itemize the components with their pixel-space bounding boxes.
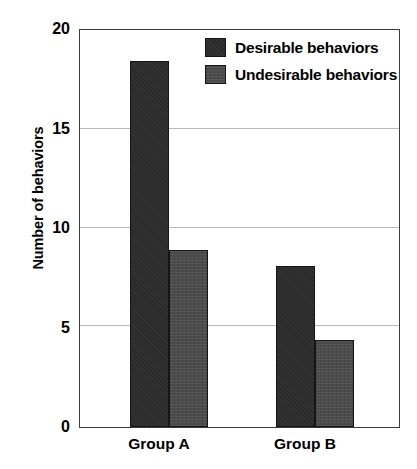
legend-swatch-undesirable-icon	[205, 65, 226, 84]
bar-group-b-desirable	[276, 266, 315, 428]
gridline-10	[80, 227, 399, 228]
chart-legend: Desirable behaviors Undesirable behavior…	[205, 36, 397, 86]
legend-label-undesirable: Undesirable behaviors	[235, 66, 397, 84]
x-tick-label-group-a: Group A	[89, 435, 229, 453]
gridline-15	[80, 128, 399, 129]
gridline-5	[80, 325, 399, 326]
plot-area: Desirable behaviors Undesirable behavior…	[79, 29, 400, 428]
legend-swatch-desirable-icon	[205, 38, 226, 57]
y-tick-label-5: 5	[10, 319, 70, 337]
bar-group-a-desirable	[130, 61, 169, 427]
y-tick-label-20: 20	[10, 20, 70, 38]
legend-entry-undesirable: Undesirable behaviors	[205, 63, 397, 86]
bar-group-a-undesirable	[169, 250, 208, 427]
y-tick-label-0: 0	[10, 418, 70, 436]
bar-group-b-undesirable	[315, 340, 354, 427]
y-tick-label-10: 10	[10, 219, 70, 237]
x-tick-label-group-b: Group B	[235, 435, 375, 453]
y-tick-label-15: 15	[10, 120, 70, 138]
legend-label-desirable: Desirable behaviors	[235, 39, 379, 57]
bar-chart-figure: Number of behaviors 20 15 10 5 0 Desirab…	[0, 0, 417, 469]
legend-entry-desirable: Desirable behaviors	[205, 36, 397, 59]
